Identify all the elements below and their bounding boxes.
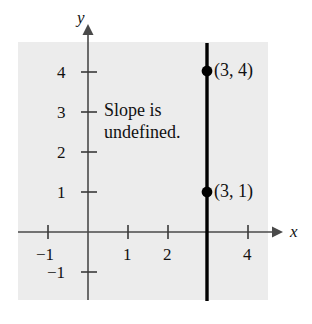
- point-label-3-4: (3, 4): [214, 61, 253, 79]
- y-tick-label-3: 3: [57, 104, 66, 121]
- annotation-line-1: Slope is: [104, 100, 180, 122]
- y-tick-label-4: 4: [57, 64, 66, 81]
- graph-figure: y x 4 3 2 1 −1 −1 1 2 4 (3, 4) (3, 1) Sl…: [0, 0, 312, 324]
- y-axis: [83, 24, 94, 300]
- x-tick-label-4: 4: [243, 246, 252, 263]
- point-label-3-1: (3, 1): [214, 182, 253, 200]
- y-axis-label: y: [77, 9, 85, 26]
- x-tick-label-2: 2: [163, 246, 172, 263]
- y-tick-label-negative-1: −1: [47, 264, 65, 281]
- slope-undefined-annotation: Slope is undefined.: [104, 100, 180, 144]
- x-tick-label-negative-1: −1: [36, 246, 54, 263]
- annotation-line-2: undefined.: [104, 122, 180, 144]
- data-point-3-4: [202, 66, 213, 77]
- x-axis: [18, 227, 283, 238]
- x-axis-label: x: [290, 223, 298, 240]
- y-tick-label-2: 2: [57, 144, 66, 161]
- data-point-3-1: [202, 187, 213, 198]
- y-axis-ticks: [81, 72, 97, 272]
- x-tick-label-1: 1: [123, 246, 132, 263]
- y-tick-label-1: 1: [57, 184, 66, 201]
